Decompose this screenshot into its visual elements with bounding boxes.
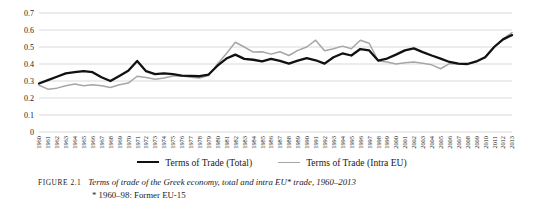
x-axis-tick-label: 1990 (303, 136, 310, 149)
x-axis-tick-label: 2007 (455, 135, 462, 149)
legend-line-swatch-total (137, 161, 159, 163)
x-axis-tick-label: 2003 (419, 136, 426, 149)
x-axis-tick-label: 2004 (428, 135, 435, 149)
y-axis-tick-label: 0.1 (24, 111, 34, 120)
y-axis-tick-label: 0.5 (24, 43, 34, 52)
legend-label-total: Terms of Trade (Total) (165, 157, 252, 168)
x-axis-tick-label: 1984 (250, 135, 257, 149)
x-axis-tick-label: 1983 (241, 136, 248, 149)
x-axis-tick-label: 2005 (437, 136, 444, 149)
x-axis-tick-label: 2008 (464, 136, 471, 149)
x-axis-tick-label: 2002 (410, 136, 417, 149)
x-axis-tick-label: 1965 (80, 136, 87, 149)
x-axis-tick-label: 2000 (392, 136, 399, 149)
x-axis-tick-label: 2009 (473, 136, 480, 149)
x-axis-tick-label: 2012 (499, 136, 506, 149)
figure-number-label: FIGURE 2.1 (38, 177, 88, 189)
legend-item-total: Terms of Trade (Total) (137, 157, 252, 168)
x-axis-tick-label: 2010 (482, 136, 489, 149)
x-axis-tick-label: 1962 (53, 136, 60, 149)
x-axis-tick-label: 1978 (196, 136, 203, 149)
x-axis-tick-label: 1964 (71, 135, 78, 149)
x-axis-tick-label: 1993 (330, 136, 337, 149)
x-axis-tick-label: 1996 (357, 136, 364, 149)
caption-line-note: * 1960–98: Former EU-15 (0, 189, 544, 201)
x-axis-tick-label: 1974 (160, 135, 167, 149)
x-axis-tick-label: 1963 (62, 136, 69, 149)
x-axis-tick-label: 1970 (125, 136, 132, 149)
figure-container: 0.70.60.50.40.30.20.10 19601961196219631… (0, 0, 544, 210)
legend-item-intra-eu: Terms of Trade (Intra EU) (278, 157, 407, 168)
terms-of-trade-line-chart: 0.70.60.50.40.30.20.10 19601961196219631… (0, 0, 544, 152)
x-axis-tick-label: 1979 (205, 136, 212, 149)
legend-line-swatch-intra-eu (278, 162, 300, 163)
x-axis-tick-label: 1991 (312, 136, 319, 149)
x-axis-tick-label: 1995 (348, 136, 355, 149)
x-axis-tick-label: 1981 (223, 136, 230, 149)
x-axis-tick-label: 1998 (375, 136, 382, 149)
x-axis-tick-label: 1967 (98, 135, 105, 149)
series-line (39, 35, 512, 83)
figure-caption: FIGURE 2.1 Terms of trade of the Greek e… (0, 176, 544, 201)
chart-legend: Terms of Trade (Total) Terms of Trade (I… (0, 152, 544, 172)
x-axis-tick-label: 1972 (142, 136, 149, 149)
figure-caption-text: Terms of trade of the Greek economy, tot… (88, 176, 356, 188)
x-axis-tick-label: 1994 (339, 135, 346, 149)
x-axis-tick-label: 1985 (259, 136, 266, 149)
y-axis-tick-label: 0.7 (24, 9, 34, 18)
x-axis-tick-label: 1961 (44, 136, 51, 149)
x-axis-tick-label: 1971 (134, 136, 141, 149)
chart-plot-area: 0.70.60.50.40.30.20.10 19601961196219631… (0, 0, 544, 152)
x-axis-tick-label: 1973 (151, 136, 158, 149)
x-axis-tick-label: 1960 (35, 136, 42, 149)
y-axis-tick-label: 0.3 (24, 77, 34, 86)
x-axis-tick-label: 1968 (107, 136, 114, 149)
x-axis-tick-label: 1976 (178, 136, 185, 149)
x-axis-tick-label: 1980 (214, 136, 221, 149)
legend-label-intra-eu: Terms of Trade (Intra EU) (306, 157, 407, 168)
x-axis-tick-label: 1987 (276, 135, 283, 149)
x-axis-tick-label: 1982 (232, 136, 239, 149)
x-axis-tick-label: 1977 (187, 135, 194, 149)
x-axis-tick-label: 1988 (285, 136, 292, 149)
y-axis-tick-label: 0.6 (24, 26, 34, 35)
x-axis-tick-label: 1992 (321, 136, 328, 149)
figure-footnote-text: * 1960–98: Former EU-15 (92, 189, 186, 201)
gridlines (39, 13, 512, 132)
x-axis-tick-labels: 1960196119621963196419651966196719681969… (35, 135, 515, 149)
caption-line-main: FIGURE 2.1 Terms of trade of the Greek e… (0, 176, 544, 189)
x-axis-tick-label: 2011 (491, 136, 498, 149)
y-axis-tick-label: 0.2 (24, 94, 34, 103)
y-axis-tick-labels: 0.70.60.50.40.30.20.10 (24, 9, 34, 137)
x-axis-tick-label: 2001 (401, 136, 408, 149)
y-axis-tick-label: 0 (30, 128, 34, 137)
x-axis-tick-label: 1966 (89, 136, 96, 149)
x-axis-tick-label: 2006 (446, 136, 453, 149)
x-axis-tick-label: 1989 (294, 136, 301, 149)
x-axis-tick-label: 1997 (366, 135, 373, 149)
x-axis-tick-label: 1975 (169, 136, 176, 149)
x-axis-tick-label: 1986 (267, 136, 274, 149)
y-axis-tick-label: 0.4 (24, 60, 34, 69)
x-axis-tick-label: 1999 (383, 136, 390, 149)
x-axis-tick-label: 2013 (508, 136, 515, 149)
x-axis-tick-label: 1969 (116, 136, 123, 149)
